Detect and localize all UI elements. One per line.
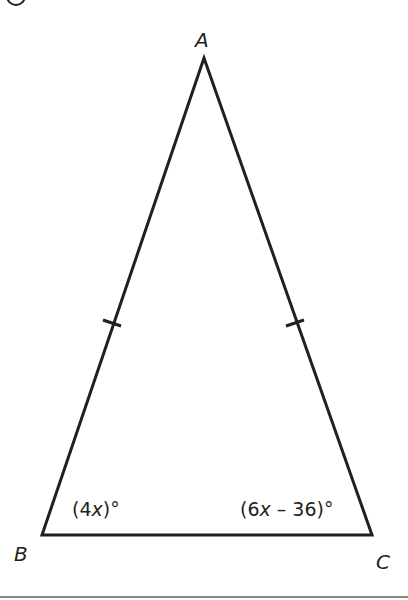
tick-mark-ac — [286, 320, 304, 326]
bottom-divider — [0, 596, 408, 598]
triangle-abc — [42, 58, 372, 535]
vertex-label-c: C — [376, 550, 390, 574]
triangle-figure — [0, 0, 408, 600]
vertex-label-a: A — [195, 28, 209, 52]
angle-label-c: (6x – 36)° — [240, 498, 333, 520]
angle-label-b: (4x)° — [72, 498, 120, 520]
vertex-label-b: B — [14, 542, 28, 566]
